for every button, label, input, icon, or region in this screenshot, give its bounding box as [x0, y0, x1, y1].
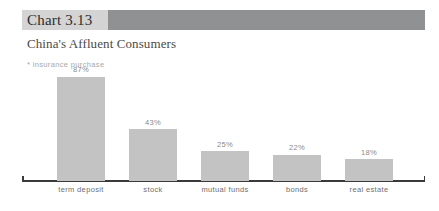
bar-group: 22% [273, 61, 321, 181]
plot-area: 87% 43% 25% 22% 18% term deposit stock m… [0, 0, 439, 211]
bar-group: 87% [57, 61, 105, 181]
bar [201, 151, 249, 181]
bar-group: 25% [201, 61, 249, 181]
bar [345, 159, 393, 181]
x-axis-left-cap [22, 176, 24, 181]
category-label: real estate [324, 185, 414, 194]
bar-value-label: 43% [129, 118, 177, 127]
x-axis-right-cap [424, 176, 426, 181]
bar-value-label: 22% [273, 143, 321, 152]
chart-figure: Chart 3.13 China's Affluent Consumers * … [0, 0, 439, 211]
bar [129, 129, 177, 181]
bar-value-label: 25% [201, 140, 249, 149]
bar [273, 155, 321, 181]
bar [57, 77, 105, 181]
bar-group: 18% [345, 61, 393, 181]
bar-group: 43% [129, 61, 177, 181]
bar-value-label: 87% [57, 65, 105, 74]
bar-value-label: 18% [345, 148, 393, 157]
